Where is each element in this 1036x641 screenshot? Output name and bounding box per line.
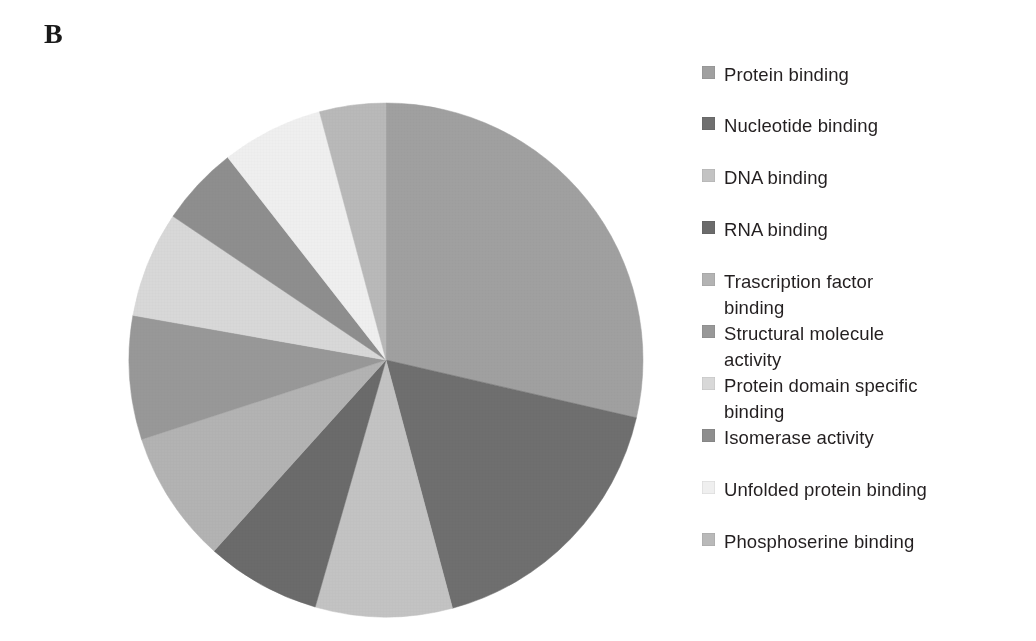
legend-swatch-icon (702, 117, 715, 130)
legend-item-label: Unfolded protein binding (724, 477, 927, 503)
legend-swatch-icon (702, 273, 715, 286)
legend-item[interactable]: Isomerase activity (702, 425, 874, 451)
legend-item[interactable]: DNA binding (702, 165, 828, 191)
legend-swatch-icon (702, 429, 715, 442)
legend-item-label: RNA binding (724, 217, 828, 243)
panel-label: B (44, 20, 63, 48)
legend-item-label: Trascription factor binding (724, 269, 873, 321)
legend-item[interactable]: Trascription factor binding (702, 269, 873, 321)
legend-swatch-icon (702, 325, 715, 338)
legend-item[interactable]: Nucleotide binding (702, 113, 878, 139)
legend-swatch-icon (702, 533, 715, 546)
pie-chart-svg (128, 102, 644, 618)
legend-swatch-icon (702, 169, 715, 182)
legend-item-label: Isomerase activity (724, 425, 874, 451)
legend-swatch-icon (702, 221, 715, 234)
legend-item-label: Structural molecule activity (724, 321, 884, 373)
legend-item[interactable]: Structural molecule activity (702, 321, 884, 373)
legend-item[interactable]: Phosphoserine binding (702, 529, 914, 555)
legend-item-label: Phosphoserine binding (724, 529, 914, 555)
legend-swatch-icon (702, 66, 715, 79)
pie-slice-group (129, 103, 643, 617)
legend-item[interactable]: Protein binding (702, 62, 849, 88)
legend-swatch-icon (702, 377, 715, 390)
legend-swatch-icon (702, 481, 715, 494)
legend-item-label: Nucleotide binding (724, 113, 878, 139)
legend-item[interactable]: Unfolded protein binding (702, 477, 927, 503)
legend-item[interactable]: Protein domain specific binding (702, 373, 918, 425)
legend-item[interactable]: RNA binding (702, 217, 828, 243)
figure-panel-b: B Protein bindingNucleotide bindingDNA b… (0, 0, 1036, 641)
legend-item-label: DNA binding (724, 165, 828, 191)
pie-chart (128, 102, 644, 618)
legend-item-label: Protein binding (724, 62, 849, 88)
legend-item-label: Protein domain specific binding (724, 373, 918, 425)
